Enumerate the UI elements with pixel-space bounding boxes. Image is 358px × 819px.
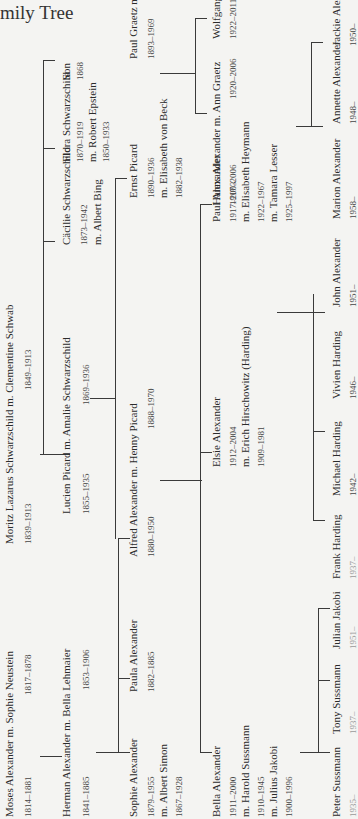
- albert-simon-dates: 1867–1928: [173, 777, 185, 818]
- elisabeth-von-beck-dates: 1882–1938: [173, 158, 185, 199]
- drop-frank: [313, 520, 325, 521]
- tamara-dates: 1925–1997: [283, 182, 295, 223]
- hanns-dates: 1917–2006: [227, 165, 239, 206]
- alexander-parents: Moses Alexander m. Sophie Neustein: [3, 651, 15, 817]
- paul-spouse2: m. Tamara Lesser: [267, 144, 279, 222]
- elsie-dates: 1912–2004: [227, 427, 239, 468]
- ernst-name: Ernst Picard: [127, 144, 139, 198]
- flora-spouse: m. Robert Epstein: [86, 82, 98, 162]
- wolfgang-dates: 1922–2011: [227, 0, 239, 39]
- connector-graetz-children: [160, 73, 196, 74]
- frank-dates: 1937–: [347, 557, 358, 580]
- herman-couple: Herman Alexander m. Bella Lehmaier: [60, 649, 72, 817]
- moritz-dates: 1839–1913: [22, 504, 34, 545]
- frank-name: Frank Harding: [330, 515, 342, 579]
- wolfgang-name: Wolfgang Grey: [210, 0, 222, 39]
- drop-marion: [311, 42, 323, 43]
- annette-name: Annette Alexander: [330, 41, 342, 124]
- alfred-couple: Alfred Alexander m. Henny Picard: [127, 403, 139, 557]
- marion-name: Marion Alexander: [330, 139, 342, 219]
- alfred-dates: 1880–1950: [145, 517, 157, 558]
- julian-name: Julian Jakobi: [330, 591, 342, 649]
- connector-alfred-children: [160, 480, 202, 481]
- connector-lucien-children: [90, 398, 116, 399]
- sophie-dates: 1879–1955: [145, 777, 157, 818]
- drop-michael: [313, 431, 325, 432]
- vivien-name: Vivien Harding: [330, 331, 342, 399]
- peter-dates: 1935–: [347, 795, 358, 818]
- family-tree-canvas: Moses Alexander m. Sophie Neustein 1814–…: [0, 0, 358, 819]
- connector-alfred-siblings: [200, 205, 201, 753]
- lucien-dates: 1855–1935: [80, 474, 92, 515]
- paul-graetz-dates: 1893–1969: [145, 19, 157, 60]
- connector-elsie-children: [277, 312, 315, 313]
- erich-dates: 1909–1981: [255, 427, 267, 468]
- drop-tony: [318, 680, 330, 681]
- elsie-name: Elsie Alexander: [210, 397, 222, 467]
- john-dates: 1951–: [347, 285, 358, 308]
- tony-dates: 1937–: [347, 712, 358, 735]
- bella-spouse1: m. Harold Sussmann: [239, 725, 251, 817]
- connector-herman-children: [96, 752, 120, 753]
- vivien-dates: 1946–: [347, 377, 358, 400]
- connector-moses-herman: [40, 756, 62, 757]
- marion-dates: 1958–: [347, 197, 358, 220]
- sophie-spouse: m. Albert Simon: [157, 744, 169, 817]
- caecilie-dates: 1873–1942: [78, 205, 90, 246]
- ernst-spouse: m. Elisabeth von Beck: [157, 98, 169, 198]
- son-dates: 1868: [74, 62, 86, 80]
- herman-dates: 1841–1885: [80, 777, 92, 818]
- tony-name: Tony Sussmann: [330, 664, 342, 734]
- caecilie-spouse: m. Albert Bing: [91, 179, 103, 245]
- drop-julian: [318, 608, 330, 609]
- michael-name: Michael Harding: [330, 421, 342, 496]
- lucien-couple: Lucien Picard m. Amalie Schwarzschild: [60, 337, 72, 514]
- drop-wolfgang: [195, 18, 207, 19]
- paul-spouse1: m. Elisabeth Heymann: [239, 121, 251, 222]
- flora-name: Flora Schwarzschild: [60, 72, 72, 162]
- drop-caecilie: [43, 241, 55, 242]
- connector-bella-siblings: [318, 609, 319, 753]
- jackie-name: Jackie Alexander: [330, 0, 342, 46]
- peter-name: Peter Sussmann: [330, 747, 342, 817]
- connector-paul-siblings: [311, 43, 312, 127]
- drop-ernst: [115, 178, 127, 179]
- robert-epstein-dates: 1850–1933: [100, 122, 112, 163]
- harold-dates: 1910–1945: [255, 777, 267, 818]
- julian-dates: 1951–: [347, 627, 358, 650]
- connector-picard-siblings: [115, 179, 116, 539]
- connector-graetz-siblings: [195, 19, 196, 114]
- elsie-spouse: m. Erich Hirschowitz (Harding): [239, 326, 251, 467]
- drop-flora: [43, 148, 55, 149]
- drop-john: [311, 126, 323, 127]
- hanns-couple: Hanns Alexander m. Ann Graetz: [210, 62, 222, 205]
- connector-bella-children: [300, 752, 320, 753]
- schwarzschild-parents: Moritz Lazarus Schwarzschild m. Clementi…: [3, 305, 15, 545]
- drop-vivien: [313, 312, 325, 313]
- jackie-dates: 1950–: [347, 24, 358, 47]
- sophie-neustein-dates: 1817–1878: [22, 655, 34, 696]
- ann-graetz-dates: 1920–2006: [227, 59, 239, 100]
- bella-alexander-dates: 1911–2000: [227, 777, 239, 817]
- sophie-name: Sophie Alexander: [127, 738, 139, 817]
- graetz-couple: Paul Graetz m. Käte Meyer: [127, 0, 139, 59]
- drop-ann: [195, 113, 207, 114]
- connector-harding-root: [313, 294, 314, 354]
- julius-dates: 1900–1996: [283, 777, 295, 818]
- bella-lehmaier-dates: 1853–1906: [80, 650, 92, 691]
- clementine-dates: 1849–1913: [22, 350, 34, 391]
- drop-son: [43, 60, 55, 61]
- drop-peter: [318, 752, 330, 753]
- connector-schwarzschild-siblings: [43, 61, 44, 455]
- moses-dates: 1814–1881: [22, 777, 34, 818]
- elisabeth-heymann-dates: 1922–1967: [255, 182, 267, 223]
- flora-dates: 1870–1919: [74, 122, 86, 163]
- annette-dates: 1948–: [347, 102, 358, 125]
- paula-dates: 1882–1885: [145, 652, 157, 693]
- bella-alexander-name: Bella Alexander: [210, 746, 222, 817]
- ernst-dates: 1890–1936: [145, 158, 157, 199]
- bella-spouse2: m. Julius Jakobi: [267, 746, 279, 817]
- connector-paul-children: [296, 126, 312, 127]
- john-name: John Alexander: [330, 238, 342, 307]
- connector-herman-siblings: [118, 539, 119, 753]
